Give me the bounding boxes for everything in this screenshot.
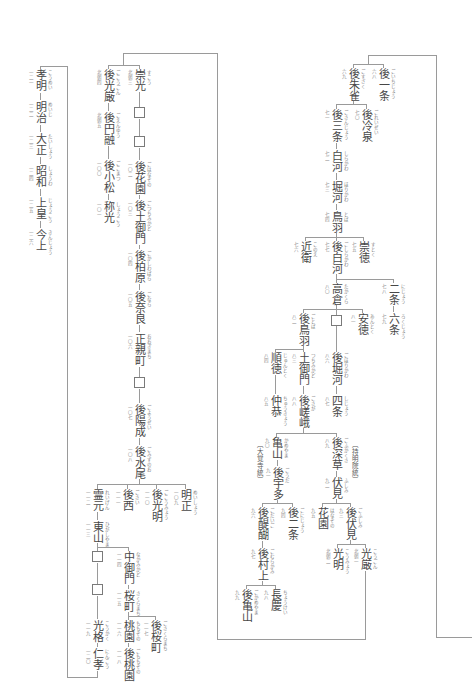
connector-line bbox=[262, 503, 293, 504]
connector-line bbox=[139, 325, 140, 332]
furigana: しょうこう bbox=[115, 202, 120, 227]
emperor-fushimi: 九二伏見ふしみ bbox=[330, 477, 342, 499]
connector-line bbox=[139, 367, 140, 377]
emperor-name: 後桃園 bbox=[122, 648, 134, 681]
furigana: さくらまち bbox=[135, 591, 140, 616]
emperor-shoko: 一〇一称光しょうこう bbox=[102, 201, 114, 223]
connector-line bbox=[336, 204, 337, 210]
reign-number: 一一三 bbox=[85, 522, 90, 537]
connector-line bbox=[336, 326, 337, 352]
furigana: ごふかくさ bbox=[343, 438, 348, 463]
unnamed-ancestor-box bbox=[92, 551, 103, 562]
emperor-go-kashiwabara: 一〇四後柏原ごかしわばら bbox=[133, 250, 145, 283]
emperor-go-sanjo: 七一後三条ごさんじょう bbox=[330, 109, 342, 142]
connector-line bbox=[336, 279, 394, 280]
furigana: ごはなぞの bbox=[146, 162, 151, 187]
reign-number: 七二 bbox=[324, 151, 329, 161]
reign-number: 一〇三 bbox=[127, 201, 132, 216]
reign-number: 九五 bbox=[310, 508, 315, 518]
connector-line bbox=[139, 389, 140, 403]
emperor-meisho: 一〇九明正めいしょう bbox=[179, 489, 191, 511]
reign-number: 八五 bbox=[263, 396, 268, 406]
unnamed-ancestor-box bbox=[134, 107, 145, 118]
connector-line bbox=[139, 92, 140, 107]
furigana: ごかしわばら bbox=[146, 251, 151, 281]
reign-number: 七一 bbox=[324, 110, 329, 120]
emperor-name: 後冷泉 bbox=[360, 109, 372, 142]
emperor-kameyama: 九〇亀山かめやま bbox=[270, 437, 282, 459]
connector-line bbox=[336, 143, 337, 149]
reign-number: 一〇四 bbox=[127, 251, 132, 266]
emperor-sakuramachi: 一一五桜町さくらまち bbox=[122, 590, 134, 612]
emperor-name: 後土御門 bbox=[133, 200, 145, 244]
unnamed-ancestor-box bbox=[134, 377, 145, 388]
furigana: ごさい bbox=[134, 490, 139, 505]
emperor-name: 後三条 bbox=[330, 109, 342, 142]
emperor-name: 順徳 bbox=[269, 352, 281, 374]
reign-number: 八八 bbox=[291, 396, 296, 406]
emperor-meiji: 一二二明治めいじ bbox=[34, 101, 46, 123]
emperor-name: 後鳥羽 bbox=[297, 313, 309, 346]
emperor-go-sakuramachi: 一一七後桜町ごさくらまち bbox=[149, 620, 161, 653]
emperor-name: 白河 bbox=[330, 150, 342, 172]
furigana: ごしらかわ bbox=[343, 242, 348, 267]
furigana: ごふしみ bbox=[357, 508, 362, 528]
connector-line bbox=[217, 639, 366, 640]
furigana: こうみょう bbox=[344, 549, 349, 574]
connector-line bbox=[139, 284, 140, 290]
connector-line bbox=[128, 643, 129, 647]
reign-number: 七九 bbox=[381, 314, 386, 324]
emperor-go-komatsu: 一〇〇後小松ごこまつ bbox=[102, 160, 114, 193]
furigana: ごれいぜい bbox=[373, 110, 378, 135]
reign-number: 一一〇 bbox=[144, 490, 149, 505]
emperor-nakamikado: 一一四中御門なかみかど bbox=[122, 551, 134, 584]
emperor-go-reizei: 七〇後冷泉ごれいぜい bbox=[360, 109, 372, 142]
emperor-name: 後西 bbox=[121, 489, 133, 511]
emperor-name: 上皇 bbox=[34, 197, 46, 219]
furigana: ごうだ bbox=[284, 468, 289, 483]
emperor-name: 亀山 bbox=[270, 437, 282, 459]
reign-number: 九三 bbox=[338, 508, 343, 518]
emperor-name: 崇徳 bbox=[357, 241, 369, 263]
emperor-name: 後一条 bbox=[377, 68, 389, 101]
emperor-name: 光厳 bbox=[359, 548, 371, 570]
emperor-horikawa: 七三堀河ほりかわ bbox=[330, 181, 342, 203]
connector-line bbox=[97, 547, 129, 548]
emperor-name: 堀河 bbox=[330, 181, 342, 203]
reign-number: 一〇九 bbox=[173, 490, 178, 505]
connector-line bbox=[217, 53, 218, 640]
emperor-name: 後光厳 bbox=[102, 69, 114, 102]
unnamed-ancestor-box bbox=[92, 584, 103, 595]
reign-number: 一一四 bbox=[116, 552, 121, 567]
connector-line bbox=[97, 596, 98, 619]
reign-number: 七〇 bbox=[354, 110, 359, 120]
connector-line bbox=[108, 194, 109, 200]
reign-number: 北朝五 bbox=[96, 113, 101, 128]
furigana: ごむらかみ bbox=[269, 549, 274, 574]
connector-line bbox=[40, 93, 41, 100]
connector-line bbox=[305, 237, 364, 238]
connector-line bbox=[97, 484, 186, 485]
reign-number: 七七 bbox=[324, 242, 329, 252]
connector-line bbox=[277, 460, 278, 466]
emperor-name: 仁孝 bbox=[91, 648, 103, 670]
emperor-name: 土御門 bbox=[297, 352, 309, 385]
furigana: ごさが bbox=[310, 396, 315, 411]
furigana: つちみかど bbox=[310, 353, 315, 378]
connector-line bbox=[246, 585, 276, 586]
reign-number: 一〇一 bbox=[96, 202, 101, 217]
connector-line bbox=[139, 119, 140, 136]
emperor-go-uda: 九一後宇多ごうだ bbox=[271, 467, 283, 500]
connector-line bbox=[128, 585, 129, 589]
emperor-name: 東山 bbox=[91, 521, 103, 543]
emperor-name: 光格 bbox=[91, 620, 103, 642]
emperor-name: 中御門 bbox=[122, 551, 134, 584]
furigana: たかくら bbox=[343, 284, 348, 304]
emperor-jokou: 一二五上皇じょうこう bbox=[34, 197, 46, 219]
emperor-momozono: 一一六桃園ももぞの bbox=[122, 620, 134, 642]
reign-number: 一〇二 bbox=[127, 162, 132, 177]
furigana: ごなら bbox=[146, 292, 151, 307]
unnamed-ancestor-box bbox=[331, 315, 342, 326]
emperor-kogon: 北朝一光厳こうごん bbox=[359, 548, 371, 570]
furigana: こうごん bbox=[372, 549, 377, 569]
